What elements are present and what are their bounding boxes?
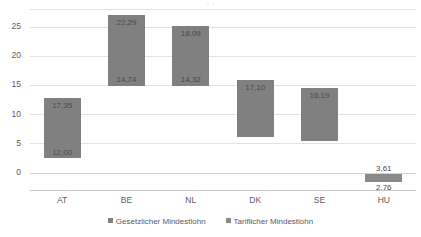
category-label-at: AT (37, 194, 87, 206)
category-axis-line (30, 190, 416, 191)
bar-label-top-se: 16,19 (301, 91, 338, 100)
chart-legend: Gesetzlicher MindestlohnTariflicher Mind… (0, 216, 421, 227)
y-axis-tick-10: 10 (0, 110, 21, 119)
gridline-20 (30, 56, 416, 57)
gridline-25 (30, 27, 416, 28)
bar-hu[interactable] (365, 174, 402, 182)
gridline-10 (30, 114, 416, 115)
chart-title-remnant: · · (0, 0, 421, 7)
bar-column-nl[interactable]: 18,0914,32 (172, 9, 209, 190)
plot-area: 051015202517,3512,0022,2914,7418,0914,32… (30, 9, 416, 190)
category-label-dk: DK (230, 194, 280, 206)
category-label-be: BE (102, 194, 152, 206)
y-axis-tick-0: 0 (0, 168, 21, 177)
bar-label-top-nl: 18,09 (172, 29, 209, 38)
y-axis-tick-5: 5 (0, 139, 21, 148)
legend-item-2[interactable]: Tariflicher Mindestlohn (226, 216, 314, 227)
bar-column-be[interactable]: 22,2914,74 (108, 9, 145, 190)
legend-label-1: Gesetzlicher Mindestlohn (116, 216, 206, 227)
gridline-15 (30, 85, 416, 86)
legend-swatch-icon-2 (226, 218, 231, 223)
chart-container: · · 051015202517,3512,0022,2914,7418,091… (0, 0, 421, 237)
legend-label-2: Tariflicher Mindestlohn (234, 216, 314, 227)
bar-label-top-be: 22,29 (108, 18, 145, 27)
category-label-nl: NL (166, 194, 216, 206)
bar-column-se[interactable]: 16,19 (301, 9, 338, 190)
category-label-se: SE (295, 194, 345, 206)
legend-item-1[interactable]: Gesetzlicher Mindestlohn (108, 216, 206, 227)
bar-label-bottom-at: 12,00 (44, 148, 81, 157)
bar-label-top-dk: 17,10 (237, 83, 274, 92)
gridline-5 (30, 143, 416, 144)
bar-label-top-hu: 3,61 (365, 164, 402, 173)
category-label-hu: HU (359, 194, 409, 206)
gridline-top (30, 9, 416, 10)
y-axis-tick-15: 15 (0, 80, 21, 89)
bar-column-hu[interactable]: 3,612,76 (365, 9, 402, 190)
gridline-0 (30, 173, 416, 174)
bar-label-bottom-be: 14,74 (108, 75, 145, 84)
bar-column-at[interactable]: 17,3512,00 (44, 9, 81, 190)
bar-column-dk[interactable]: 17,10 (237, 9, 274, 190)
y-axis-tick-20: 20 (0, 51, 21, 60)
category-axis-labels: ATBENLDKSEHU (30, 194, 416, 208)
y-axis-tick-25: 25 (0, 22, 21, 31)
bar-label-bottom-nl: 14,32 (172, 75, 209, 84)
legend-swatch-icon-1 (108, 218, 113, 223)
bar-label-top-at: 17,35 (44, 101, 81, 110)
